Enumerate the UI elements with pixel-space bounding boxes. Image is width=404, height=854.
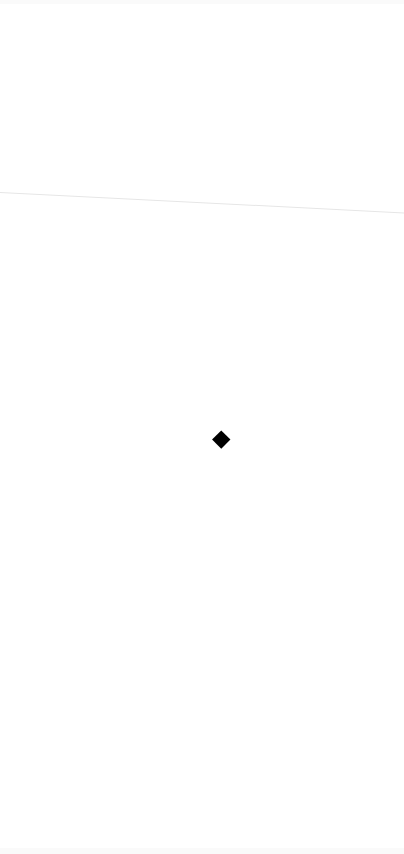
top-edge-band (0, 0, 404, 4)
loading-screen: Loading (0, 0, 404, 854)
loading-spinner: Loading (212, 430, 230, 448)
diamond-icon (212, 430, 230, 448)
bottom-edge-band (0, 848, 404, 854)
divider-line (0, 192, 404, 214)
